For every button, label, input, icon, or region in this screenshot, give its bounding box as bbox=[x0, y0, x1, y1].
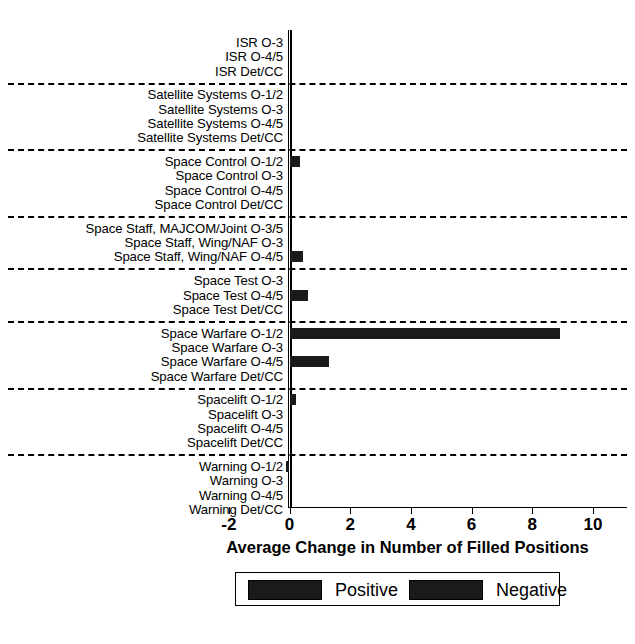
group-separator bbox=[8, 83, 627, 85]
zero-reference-line bbox=[290, 30, 292, 507]
x-tick-1 bbox=[290, 507, 291, 514]
x-tick-2 bbox=[350, 507, 351, 514]
legend-swatch-positive bbox=[248, 580, 322, 600]
group-separator bbox=[8, 149, 627, 151]
x-tick-label-1: 0 bbox=[270, 515, 310, 535]
category-label: Space Control Det/CC bbox=[0, 198, 283, 212]
category-label: Satellite Systems O-3 bbox=[0, 103, 283, 117]
group-separator bbox=[8, 454, 627, 456]
category-label: Satellite Systems Det/CC bbox=[0, 131, 283, 145]
chart-figure: ISR O-3ISR O-4/5ISR Det/CCSatellite Syst… bbox=[0, 0, 635, 644]
x-tick-0 bbox=[229, 507, 230, 514]
x-tick-3 bbox=[411, 507, 412, 514]
category-label: Space Staff, Wing/NAF O-4/5 bbox=[0, 250, 283, 264]
category-label: Satellite Systems O-1/2 bbox=[0, 88, 283, 102]
category-label: Space Staff, Wing/NAF O-3 bbox=[0, 236, 283, 250]
chart-legend: Positive Negative bbox=[235, 572, 560, 606]
legend-item-positive: Positive bbox=[248, 578, 398, 602]
category-label: Space Test O-3 bbox=[0, 274, 283, 288]
x-tick-label-4: 6 bbox=[452, 515, 492, 535]
x-tick-4 bbox=[472, 507, 473, 514]
category-label: Satellite Systems O-4/5 bbox=[0, 117, 283, 131]
category-label: Space Control O-1/2 bbox=[0, 155, 283, 169]
category-label: Spacelift Det/CC bbox=[0, 436, 283, 450]
x-tick-label-5: 8 bbox=[512, 515, 552, 535]
category-label: Space Warfare O-4/5 bbox=[0, 355, 283, 369]
category-label: Space Control O-4/5 bbox=[0, 184, 283, 198]
category-label: Spacelift O-3 bbox=[0, 408, 283, 422]
category-label: ISR O-4/5 bbox=[0, 50, 283, 64]
x-tick-label-6: 10 bbox=[573, 515, 613, 535]
category-label: Space Warfare Det/CC bbox=[0, 370, 283, 384]
bar bbox=[290, 290, 308, 301]
category-label: Space Test O-4/5 bbox=[0, 289, 283, 303]
plot-area: ISR O-3ISR O-4/5ISR Det/CCSatellite Syst… bbox=[0, 0, 635, 530]
group-separator bbox=[8, 388, 627, 390]
legend-label-positive: Positive bbox=[335, 580, 398, 601]
group-separator bbox=[8, 216, 627, 218]
category-label: ISR O-3 bbox=[0, 36, 283, 50]
category-label: Warning O-3 bbox=[0, 474, 283, 488]
x-tick-6 bbox=[593, 507, 594, 514]
category-label: Space Control O-3 bbox=[0, 169, 283, 183]
category-label: ISR Det/CC bbox=[0, 65, 283, 79]
x-tick-5 bbox=[532, 507, 533, 514]
x-tick-label-2: 2 bbox=[330, 515, 370, 535]
category-label: Space Warfare O-3 bbox=[0, 341, 283, 355]
bar bbox=[290, 356, 329, 367]
x-axis-spine bbox=[288, 507, 627, 508]
category-label: Space Test Det/CC bbox=[0, 303, 283, 317]
x-tick-label-0: -2 bbox=[209, 515, 249, 535]
category-label: Warning O-1/2 bbox=[0, 460, 283, 474]
category-label: Spacelift O-4/5 bbox=[0, 422, 283, 436]
bar bbox=[290, 328, 560, 339]
legend-swatch-negative bbox=[409, 580, 483, 600]
group-separator bbox=[8, 321, 627, 323]
x-axis-label: Average Change in Number of Filled Posit… bbox=[180, 538, 635, 557]
category-label: Space Warfare O-1/2 bbox=[0, 327, 283, 341]
bar bbox=[290, 251, 304, 262]
x-tick-label-3: 4 bbox=[391, 515, 431, 535]
group-separator bbox=[8, 268, 627, 270]
legend-label-negative: Negative bbox=[496, 580, 567, 601]
category-label: Warning O-4/5 bbox=[0, 489, 283, 503]
category-label: Spacelift O-1/2 bbox=[0, 393, 283, 407]
category-label: Space Staff, MAJCOM/Joint O-3/5 bbox=[0, 222, 283, 236]
legend-item-negative: Negative bbox=[409, 578, 567, 602]
